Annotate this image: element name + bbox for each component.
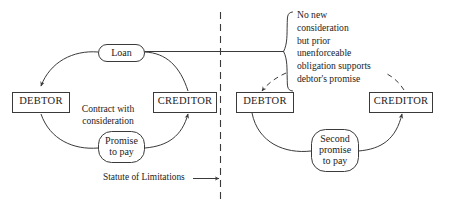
promise-to-creditor-arc [145, 114, 188, 148]
loan-oval-shape [99, 45, 145, 62]
left-debtor-box-shape [13, 93, 70, 113]
legal-consideration-diagram: DEBTOR CREDITOR Loan Promise to pay Cont… [0, 0, 453, 212]
left-creditor-box-shape [154, 93, 217, 113]
note-curly-brace [284, 12, 293, 91]
right-panel-graphics [237, 73, 433, 172]
right-debtor-to-second-promise-arc [252, 113, 311, 151]
creditor-unenforceable-dashed-arc-left [262, 73, 286, 91]
statute-of-limitations-label: Statute of Limitations [103, 172, 185, 182]
contract-with-consideration-label: Contract with consideration [76, 92, 140, 126]
right-debtor-box-shape [237, 93, 294, 113]
no-new-consideration-note: No new consideration but prior unenforce… [297, 9, 447, 86]
right-creditor-box-shape [370, 93, 433, 113]
second-promise-oval-shape [312, 130, 359, 172]
loan-to-debtor-arc [41, 52, 98, 86]
loan-to-note-connector [145, 12, 293, 91]
promise-to-pay-oval-shape [99, 132, 145, 163]
second-promise-to-creditor-arc [359, 114, 403, 151]
creditor-to-loan-arc [145, 52, 188, 91]
